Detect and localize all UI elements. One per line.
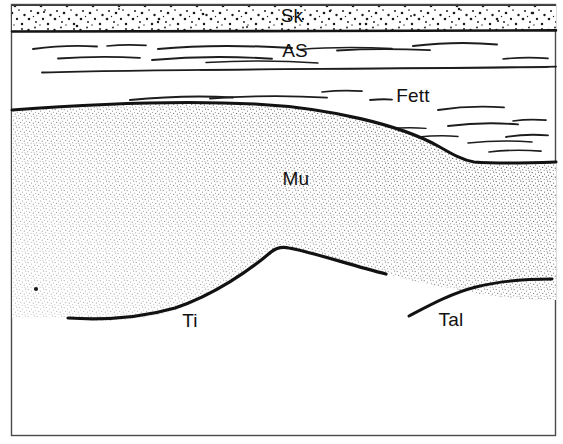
label-fett: Fett — [396, 85, 430, 106]
label-ti: Ti — [182, 310, 198, 331]
label-tal: Tal — [439, 309, 464, 330]
anatomical-cross-section-figure: Sk AS Fett Mu Ti Tal — [0, 0, 563, 444]
label-mu: Mu — [283, 168, 310, 189]
skin-bottom-line — [12, 30, 556, 31]
muscle-fleck — [34, 287, 38, 291]
label-sk: Sk — [281, 5, 304, 26]
label-as: AS — [282, 40, 308, 61]
cross-section-svg: Sk AS Fett Mu Ti Tal — [0, 0, 563, 444]
